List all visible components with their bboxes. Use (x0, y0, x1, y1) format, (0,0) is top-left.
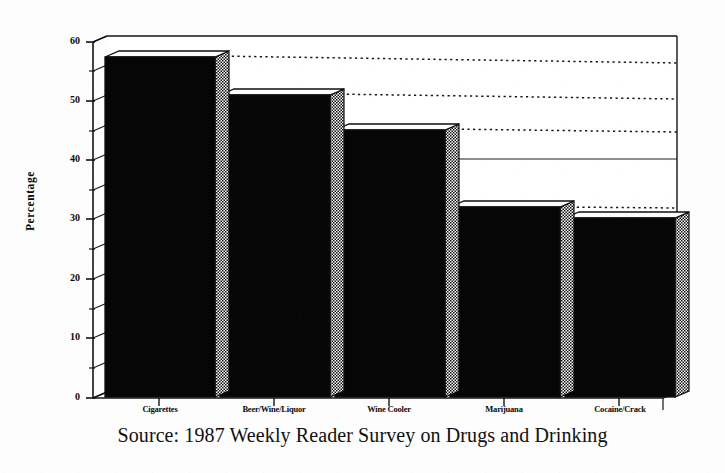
chart-page: 60 50 40 30 20 10 0 Percentage Cigarette… (0, 0, 725, 473)
bar-chart-figure: 60 50 40 30 20 10 0 Percentage Cigarette… (0, 0, 725, 473)
bar-marijuana (450, 201, 574, 397)
y-tick-label-10: 10 (52, 331, 80, 342)
y-tick-label-30: 30 (52, 212, 80, 223)
x-tick-label-beer-wine-liquor: Beer/Wine/Liquor (214, 404, 334, 414)
y-tick-label-50: 50 (52, 94, 80, 105)
bar-cigarettes (105, 51, 229, 397)
x-tick-label-cocaine-crack: Cocaine/Crack (560, 404, 680, 414)
y-tick-label-60: 60 (52, 35, 80, 46)
bar-cocaine-crack (565, 212, 689, 397)
y-tick-label-0: 0 (52, 391, 80, 402)
y-tick-label-20: 20 (52, 272, 80, 283)
bar-beer-wine-liquor (220, 89, 344, 397)
y-axis-ticks (86, 36, 107, 398)
source-caption: Source: 1987 Weekly Reader Survey on Dru… (0, 424, 725, 447)
y-tick-label-40: 40 (52, 153, 80, 164)
x-tick-label-cigarettes: Cigarettes (104, 404, 216, 414)
chart-canvas (0, 0, 725, 473)
bar-wine-cooler (335, 124, 459, 397)
x-tick-label-marijuana: Marijuana (446, 404, 562, 414)
y-axis-title: Percentage (24, 146, 36, 256)
x-tick-label-wine-cooler: Wine Cooler (331, 404, 447, 414)
